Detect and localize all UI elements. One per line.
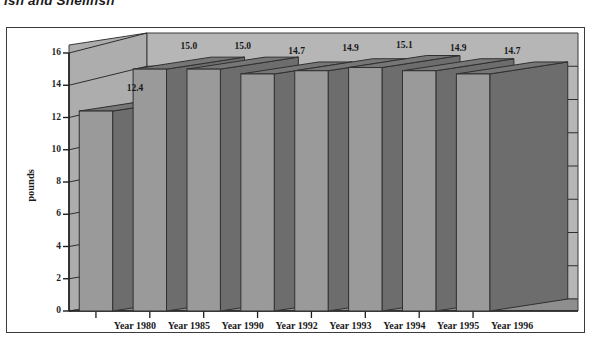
- y-tick-label: 6: [39, 208, 61, 218]
- bar-front-face: [456, 74, 489, 311]
- bar-value-label: 15.1: [396, 40, 413, 50]
- y-tick-label: 10: [39, 144, 61, 154]
- y-tick-label: 4: [39, 241, 61, 251]
- y-tick-label: 2: [39, 273, 61, 283]
- bar-chart-3d: [7, 28, 585, 333]
- bar-front-face: [402, 71, 435, 311]
- x-category-label: Year 1985: [168, 320, 210, 331]
- bar-value-label: 15.0: [181, 41, 198, 51]
- bar-value-label: 14.7: [288, 46, 305, 56]
- bar-front-face: [187, 69, 220, 311]
- x-axis-ticks: [96, 311, 473, 318]
- page-title: ish and Shellfish: [4, 0, 115, 8]
- y-axis-ticks: [63, 53, 69, 311]
- y-tick-label: 8: [39, 176, 61, 186]
- bar-front-face: [349, 68, 382, 311]
- bar-value-label: 12.4: [127, 83, 144, 93]
- y-tick-label: 16: [39, 47, 61, 57]
- chart-frame: 0246810121416 pounds 12.415.015.014.714.…: [6, 27, 585, 333]
- x-category-label: Year 1992: [275, 320, 317, 331]
- bar-side-face: [490, 62, 568, 311]
- bar-value-label: 14.9: [450, 43, 467, 53]
- x-category-label: Year 1995: [437, 320, 479, 331]
- x-category-label: Year 1980: [114, 320, 156, 331]
- y-tick-label: 12: [39, 112, 61, 122]
- x-category-label: Year 1993: [329, 320, 371, 331]
- plot-area: [7, 28, 584, 332]
- bar-front-face: [241, 74, 274, 311]
- x-category-label: Year 1994: [383, 320, 425, 331]
- bar-7[interactable]: [456, 62, 567, 311]
- y-tick-label: 0: [39, 305, 61, 315]
- y-tick-label: 14: [39, 79, 61, 89]
- bar-value-label: 14.7: [504, 46, 521, 56]
- bar-front-face: [79, 111, 112, 311]
- bar-front-face: [133, 69, 166, 311]
- bars-group: [79, 56, 568, 311]
- x-category-label: Year 1990: [222, 320, 264, 331]
- bar-value-label: 15.0: [234, 41, 251, 51]
- bar-value-label: 14.9: [342, 43, 359, 53]
- x-category-label: Year 1996: [491, 320, 533, 331]
- y-axis-title: pounds: [25, 151, 36, 221]
- bar-front-face: [295, 71, 328, 311]
